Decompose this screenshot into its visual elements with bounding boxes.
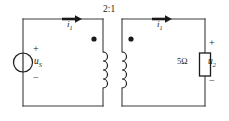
primary-current-subscript: 1 [70, 25, 73, 31]
secondary-current-subscript: 1 [160, 25, 163, 31]
output-minus-sign: − [209, 76, 215, 86]
source-plus-sign: + [33, 44, 39, 54]
primary-current-label: i1 [67, 20, 73, 31]
primary-coil [103, 52, 108, 88]
secondary-polarity-dot [128, 36, 133, 41]
output-voltage-label: u2 [208, 57, 216, 68]
source-voltage-subscript: S [39, 61, 42, 68]
circuit-diagram: 2:1 i1 i1 uS + − 5Ω u2 + − [0, 0, 229, 121]
secondary-loop-wires [122, 19, 205, 106]
voltage-source-symbol [14, 53, 33, 72]
primary-polarity-dot [91, 36, 96, 41]
turns-ratio-label: 2:1 [103, 5, 115, 15]
secondary-current-label: i1 [157, 20, 163, 31]
output-voltage-subscript: 2 [213, 61, 216, 68]
output-plus-sign: + [209, 38, 215, 48]
source-voltage-label: uS [34, 57, 42, 68]
resistor-value-label: 5Ω [177, 57, 188, 66]
secondary-coil [122, 52, 127, 88]
source-minus-sign: − [33, 73, 39, 83]
